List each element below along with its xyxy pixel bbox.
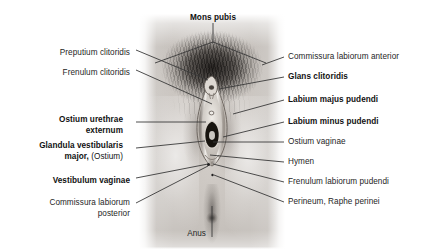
label-commissura-labiorum-posterior: Commissura labiorum posterior (15, 198, 130, 219)
label-vestibulum-vaginae: Vestibulum vaginae (14, 176, 130, 187)
label-perineum-raphe-perinei: Perineum, Raphe perinei (288, 197, 380, 208)
leader-preputium-clitoridis (136, 50, 208, 80)
label-glans-clitoridis: Glans clitoridis (288, 72, 348, 83)
hub-dot-vestibule (207, 163, 210, 166)
leader-vestibulum-vaginae (136, 164, 208, 178)
leader-glans-clitoridis (219, 77, 284, 89)
label-glandula-ostium-suffix: (Ostium) (89, 152, 123, 161)
label-preputium-clitoridis: Preputium clitoridis (20, 48, 130, 59)
leader-labium-majus-pudendi (233, 100, 284, 114)
leader-hymen (210, 155, 284, 162)
hub-dot-perineum (211, 174, 213, 176)
label-ostium-urethrae-externum: Ostium urethrae externum (13, 115, 123, 136)
bracket-mons-pubis (155, 42, 266, 63)
label-labium-majus-pudendi: Labium majus pudendi (288, 95, 378, 106)
label-anus: Anus (150, 229, 206, 240)
label-labium-minus-pudendi: Labium minus pudendi (288, 117, 379, 128)
label-ostium-vaginae: Ostium vaginae (288, 137, 346, 148)
label-frenulum-clitoridis: Frenulum clitoridis (20, 68, 130, 79)
label-frenulum-labiorum-pudendi: Frenulum labiorum pudendi (288, 177, 389, 188)
leader-commissura-labiorum-anterior (262, 57, 284, 65)
leader-frenulum-labiorum-pudendi (213, 164, 284, 182)
anatomy-figure: Mons pubis Preputium clitoridis Frenulum… (0, 0, 421, 249)
label-mons-pubis: Mons pubis (163, 13, 263, 24)
leader-glandula-vestibularis-major (136, 141, 205, 148)
leader-commissura-labiorum-posterior (136, 166, 208, 203)
leader-frenulum-clitoridis (136, 70, 212, 104)
label-hymen: Hymen (288, 157, 314, 168)
leader-labium-minus-pudendi (223, 122, 284, 137)
label-glandula-vestibularis-major: Glandula vestibularis major, (Ostium) (5, 141, 123, 162)
label-commissura-labiorum-anterior: Commissura labiorum anterior (288, 52, 399, 63)
